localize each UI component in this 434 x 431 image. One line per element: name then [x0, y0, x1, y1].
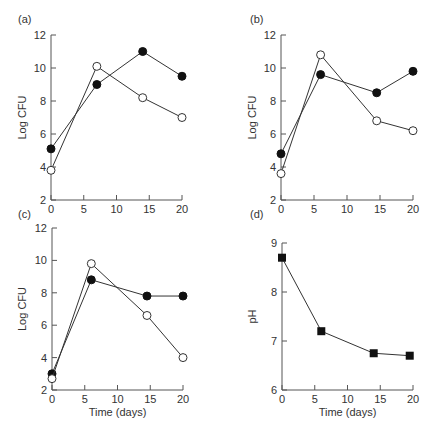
x-tick-label: 0 — [278, 203, 284, 215]
series-line — [51, 66, 182, 170]
y-tick-label: 8 — [271, 286, 277, 298]
y-axis-label: Log CFU — [16, 287, 28, 331]
figure: (a)2468101205101520Log CFU(b)24681012051… — [0, 0, 434, 431]
series-line — [281, 71, 413, 154]
filled-circle-marker — [139, 48, 147, 56]
x-tick-label: 10 — [110, 203, 122, 215]
open-circle-marker — [317, 51, 325, 59]
x-tick-label: 10 — [341, 393, 353, 405]
filled-circle-marker — [277, 150, 285, 158]
x-axis-label: Time (days) — [319, 406, 377, 418]
series-line — [281, 55, 413, 174]
series-line — [52, 280, 183, 374]
y-tick-label: 10 — [264, 62, 276, 74]
open-circle-marker — [277, 170, 285, 178]
y-tick-label: 7 — [271, 335, 277, 347]
filled-circle-marker — [47, 145, 55, 153]
open-circle-marker — [93, 62, 101, 70]
y-tick-label: 2 — [41, 384, 47, 396]
open-circle-marker — [373, 117, 381, 125]
y-tick-label: 6 — [270, 128, 276, 140]
y-tick-label: 6 — [41, 319, 47, 331]
y-tick-label: 10 — [35, 254, 47, 266]
y-tick-label: 4 — [40, 161, 46, 173]
series-line — [282, 258, 410, 356]
filled-square-marker — [317, 327, 325, 335]
x-tick-label: 15 — [374, 203, 386, 215]
y-tick-label: 2 — [270, 194, 276, 206]
open-circle-marker — [143, 311, 151, 319]
panel-c: (c)2468101205101520Log CFUTime (days) — [16, 208, 189, 418]
y-tick-label: 8 — [270, 95, 276, 107]
open-circle-marker — [87, 260, 95, 268]
y-tick-label: 8 — [41, 287, 47, 299]
x-tick-label: 20 — [176, 203, 188, 215]
filled-square-marker — [278, 254, 286, 262]
series-line — [52, 264, 183, 379]
panel-a: (a)2468101205101520Log CFU — [16, 13, 188, 215]
filled-circle-marker — [317, 71, 325, 79]
panel-b: (b)2468101205101520Log CFU — [246, 13, 419, 215]
x-tick-label: 10 — [111, 393, 123, 405]
y-tick-label: 6 — [271, 384, 277, 396]
y-tick-label: 6 — [40, 128, 46, 140]
y-tick-label: 12 — [35, 222, 47, 234]
y-axis-label: Log CFU — [246, 95, 258, 139]
x-tick-label: 20 — [407, 393, 419, 405]
x-tick-label: 0 — [48, 203, 54, 215]
panel-label: (b) — [250, 13, 263, 25]
open-circle-marker — [48, 375, 56, 383]
y-tick-label: 9 — [271, 237, 277, 249]
panel-label: (d) — [250, 208, 263, 220]
y-tick-label: 12 — [264, 29, 276, 41]
x-tick-label: 5 — [82, 393, 88, 405]
x-tick-label: 5 — [312, 393, 318, 405]
y-tick-label: 8 — [40, 95, 46, 107]
filled-square-marker — [406, 352, 414, 360]
filled-circle-marker — [179, 292, 187, 300]
x-tick-label: 0 — [49, 393, 55, 405]
open-circle-marker — [179, 354, 187, 362]
filled-circle-marker — [373, 89, 381, 97]
y-tick-label: 4 — [270, 161, 276, 173]
x-tick-label: 15 — [374, 393, 386, 405]
x-tick-label: 5 — [311, 203, 317, 215]
panel-d: (d)678905101520pHTime (days) — [246, 208, 419, 418]
x-tick-label: 10 — [341, 203, 353, 215]
y-axis-label: Log CFU — [16, 95, 28, 139]
x-tick-label: 15 — [143, 203, 155, 215]
y-tick-label: 10 — [34, 62, 46, 74]
x-tick-label: 15 — [144, 393, 156, 405]
filled-circle-marker — [93, 81, 101, 89]
filled-circle-marker — [409, 67, 417, 75]
open-circle-marker — [47, 166, 55, 174]
panel-label: (a) — [18, 13, 31, 25]
x-tick-label: 20 — [407, 203, 419, 215]
panel-label: (c) — [18, 208, 31, 220]
y-tick-label: 4 — [41, 352, 47, 364]
y-axis-label: pH — [246, 309, 258, 323]
y-tick-label: 2 — [40, 194, 46, 206]
x-tick-label: 0 — [279, 393, 285, 405]
y-tick-label: 12 — [34, 29, 46, 41]
filled-square-marker — [370, 349, 378, 357]
open-circle-marker — [139, 94, 147, 102]
filled-circle-marker — [87, 276, 95, 284]
series-line — [51, 52, 182, 149]
filled-circle-marker — [143, 292, 151, 300]
x-tick-label: 5 — [81, 203, 87, 215]
filled-circle-marker — [178, 72, 186, 80]
x-tick-label: 20 — [177, 393, 189, 405]
x-axis-label: Time (days) — [89, 406, 147, 418]
open-circle-marker — [178, 114, 186, 122]
open-circle-marker — [409, 127, 417, 135]
